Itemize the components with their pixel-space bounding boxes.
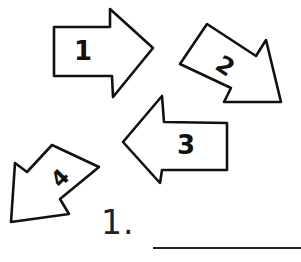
arrows-figure: 1 2 3 4 [0,0,301,262]
arrow-2-down-right-icon: 2 [180,24,281,102]
arrow-4-down-left-icon: 4 [11,145,99,222]
answer-blank-line[interactable] [153,247,301,249]
answer-number-label: 1. [101,206,135,239]
arrow-1-label: 1 [74,36,92,66]
arrow-1-right-icon: 1 [54,9,153,97]
arrow-3-label: 3 [177,130,195,160]
arrow-3-left-icon: 3 [123,96,227,183]
